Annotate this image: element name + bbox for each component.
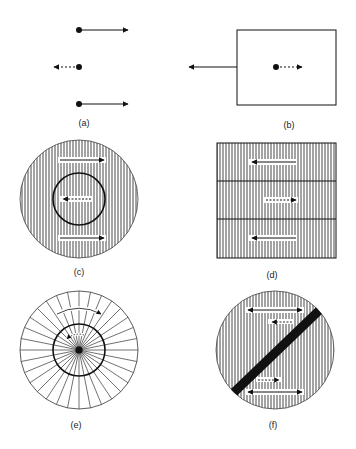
panel-label: (e) xyxy=(71,420,82,430)
panel-f: (f) xyxy=(216,291,334,430)
panel-label: (b) xyxy=(284,120,295,130)
box xyxy=(237,30,336,105)
panel-label: (d) xyxy=(267,270,278,280)
panel-e: (e) xyxy=(20,291,138,430)
panel-label: (f) xyxy=(269,420,278,430)
panel-b: (b) xyxy=(189,30,336,130)
panel-c: (c) xyxy=(20,140,138,277)
figure-canvas: (a) (b) (c) (d) xyxy=(0,0,356,449)
center-hub xyxy=(76,347,83,354)
panel-label: (a) xyxy=(79,118,90,128)
panel-d: (d) xyxy=(217,143,336,280)
panel-a: (a) xyxy=(54,27,128,128)
panel-label: (c) xyxy=(74,267,85,277)
